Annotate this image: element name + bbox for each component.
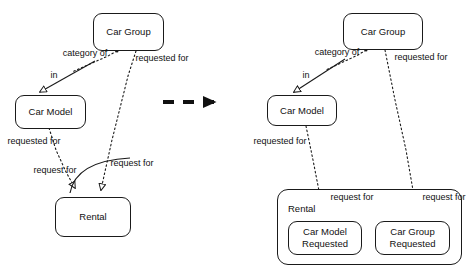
node-label-line1: Car Group [390,226,434,238]
edge-label-line2: for [66,165,77,175]
node-label-line1: Car Model [303,226,347,238]
node-label: Rental [79,211,106,223]
node-car-model-left[interactable]: Car Model [15,95,86,129]
edge-label-request-for-left: request for [32,165,78,176]
edge-label-line2: for [296,136,307,146]
edge-label-line1: requested [7,136,47,146]
edge-requested-for-group-right [385,50,414,196]
edge-label-requested-for-model-left: requested for [6,136,62,147]
edge-label-line1: request [422,192,452,202]
diagram-canvas: Car Group Car Model Rental category of i… [0,0,469,277]
node-car-group-right[interactable]: Car Group [343,13,423,50]
edge-label-in-right: in [297,70,315,81]
node-label: Car Group [361,26,405,38]
edge-label-line2: for [455,192,466,202]
edge-requested-for-group-left [101,51,136,190]
edge-label-line1: category [315,47,350,57]
node-label: Car Model [29,106,73,118]
node-car-model-requested[interactable]: Car Model Requested [288,221,362,255]
edge-label-line2: for [50,136,61,146]
edge-label-requested-for-group-left: requested for [134,53,190,64]
node-label: Car Group [106,26,150,38]
edge-label-category-of-left: category of [58,48,112,59]
edge-label-request-for-model-right: request for [329,192,375,203]
node-rental-label-right: Rental [288,203,315,214]
edge-label-line1: request [330,192,360,202]
edge-requested-for-model-right [306,126,320,196]
edge-label-in-left: in [45,70,63,81]
node-car-model-right[interactable]: Car Model [267,95,337,126]
edge-label-line1: request [110,158,140,168]
edge-label-line1: request [33,165,63,175]
edge-label-line1: requested [135,53,175,63]
edge-label-line2: for [143,158,154,168]
node-label-line2: Requested [390,238,436,250]
edge-label-line1: category [63,48,98,58]
edge-label-requested-for-model-right: requested for [252,136,308,147]
edge-label-request-for-group-right: request for [421,192,467,203]
node-label-line2: Requested [302,238,348,250]
edge-label-line1: requested [253,136,293,146]
node-car-group-requested[interactable]: Car Group Requested [375,221,450,255]
edge-label-requested-for-group-right: requested for [393,52,449,63]
edge-label-line2: of [100,48,108,58]
edge-label-line2: of [352,47,360,57]
node-label: Car Model [280,105,324,117]
edge-label-line2: for [178,53,189,63]
edge-label-request-for-right-left: request for [109,158,155,169]
edge-label-line1: in [302,70,309,80]
edge-label-category-of-right: category of [310,47,364,58]
edge-label-line1: requested [394,52,434,62]
node-car-group-left[interactable]: Car Group [93,13,164,51]
edge-label-line2: for [363,192,374,202]
edge-label-line1: in [50,70,57,80]
node-rental-left[interactable]: Rental [55,197,131,237]
edge-label-line2: for [437,52,448,62]
